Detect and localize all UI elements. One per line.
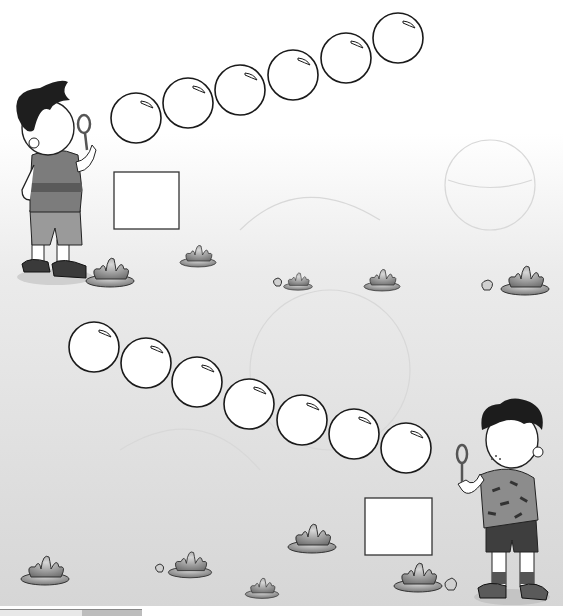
bubble [268,50,318,100]
bubble [224,379,274,429]
bubble [277,395,327,445]
bubble [373,13,423,63]
bubble [111,93,161,143]
bubble [321,33,371,83]
top-answer-box[interactable] [114,172,179,229]
bubble [121,338,171,388]
bubble [163,78,213,128]
page-tab-a [0,609,82,616]
bubble [381,423,431,473]
page-tab-b [82,609,142,616]
bubble [172,357,222,407]
bubble [69,322,119,372]
bottom-answer-box[interactable] [365,498,432,555]
bubble [329,409,379,459]
bubble [215,65,265,115]
